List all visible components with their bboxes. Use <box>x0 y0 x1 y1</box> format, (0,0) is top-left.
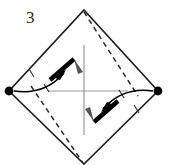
upper-left-fold-tab-taper <box>74 59 83 74</box>
upper-right-dashed-fold-line <box>84 12 138 96</box>
left-vertex-dot <box>5 87 14 96</box>
tick-upper-left-outer <box>29 69 34 77</box>
origami-step-figure: 3 <box>0 0 170 165</box>
lower-left-dashed-fold-line <box>31 86 83 163</box>
right-vertex-dot <box>154 87 163 96</box>
lower-right-fold-tab-taper <box>85 107 94 122</box>
fold-diagram-canvas: 3 <box>0 0 170 165</box>
step-number-label: 3 <box>26 8 35 27</box>
